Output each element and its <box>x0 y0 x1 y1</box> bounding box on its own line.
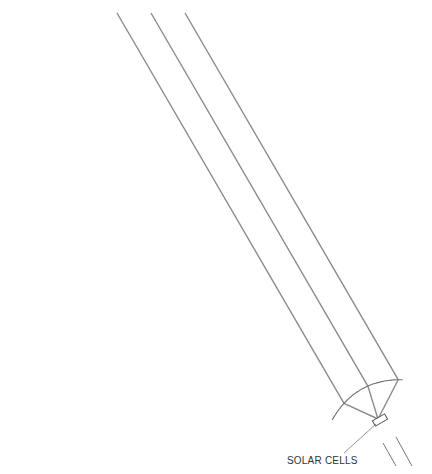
diagram-canvas <box>0 0 432 474</box>
solar-concentrator-diagram: SOLAR CELLS <box>0 0 432 474</box>
reflected-ray <box>368 386 378 419</box>
incoming-ray <box>185 13 398 380</box>
reflected-ray <box>344 403 378 419</box>
reflected-rays <box>344 380 398 419</box>
incoming-ray <box>151 13 368 386</box>
reflected-ray <box>378 380 398 419</box>
sun-rays <box>117 13 398 403</box>
support-strut-left <box>383 443 396 466</box>
label-leader-line <box>344 424 376 453</box>
solar-cells-label: SOLAR CELLS <box>287 455 358 466</box>
incoming-ray <box>117 13 344 403</box>
support-strut-right <box>396 437 412 466</box>
